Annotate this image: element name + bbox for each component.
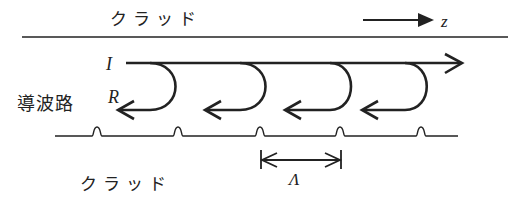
reflection-loop <box>205 63 266 119</box>
reflected-label: R <box>107 87 119 107</box>
reflection-loop <box>285 63 351 119</box>
z-arrow-head <box>418 13 434 27</box>
period-label: Λ <box>287 170 300 189</box>
period-dimension-marker <box>261 150 341 169</box>
waveguide-diagram: クラッド z I R 導波路 Λ クラッド <box>0 0 517 208</box>
grating-boundary <box>55 127 458 136</box>
cladding-top-label: クラッド <box>110 9 202 29</box>
reflection-loop <box>118 63 176 119</box>
incident-label: I <box>105 54 113 74</box>
z-axis-label: z <box>440 12 448 31</box>
z-direction-arrow <box>363 13 434 27</box>
cladding-bottom-label: クラッド <box>80 174 172 194</box>
waveguide-label: 導波路 <box>17 93 74 114</box>
reflection-loop <box>362 63 427 119</box>
